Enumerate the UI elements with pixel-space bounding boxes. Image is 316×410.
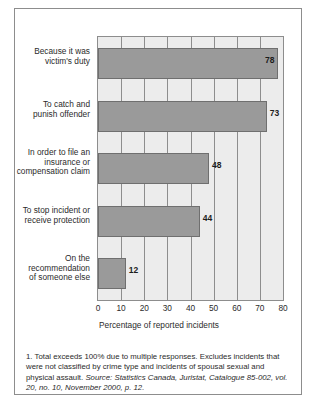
category-label: Because it was victim's duty (10, 47, 90, 66)
bar[interactable] (98, 206, 200, 237)
category-label: To stop incident or receive protection (10, 206, 90, 225)
x-tick-label: 60 (232, 303, 241, 313)
x-tick-label: 50 (209, 303, 218, 313)
category-label-line: punish offender (10, 110, 90, 120)
bar[interactable] (98, 101, 267, 132)
x-tick-label: 20 (140, 303, 149, 313)
category-label: In order to file an insurance or compens… (10, 148, 90, 177)
footnote-source-journal: Juristat (179, 373, 204, 382)
bar-row: 78 (98, 37, 283, 90)
bar-row: 48 (98, 142, 283, 195)
bar-row: 73 (98, 90, 283, 143)
footnote-number: 1. (26, 352, 33, 361)
bar-value-label: 44 (203, 213, 212, 223)
gridline (283, 37, 284, 300)
x-tick-label: 80 (278, 303, 287, 313)
bar[interactable] (98, 48, 278, 79)
x-tick-label: 70 (255, 303, 264, 313)
bar-row: 44 (98, 195, 283, 248)
bar-value-label: 73 (270, 108, 279, 118)
x-tick-label: 10 (117, 303, 126, 313)
x-tick-label: 0 (96, 303, 101, 313)
footnote-source-label: Source: (85, 373, 112, 382)
plot-area: 7873484412 (97, 36, 284, 301)
category-label-line: victim's duty (10, 57, 90, 67)
bar-chart: Because it was victim's duty To catch an… (15, 9, 303, 319)
category-label-line: receive protection (10, 216, 90, 226)
x-tick-label: 40 (186, 303, 195, 313)
footnote: 1. Total exceeds 100% due to multiple re… (26, 352, 292, 394)
x-axis-title: Percentage of reported incidents (15, 320, 303, 330)
bar-value-label: 48 (212, 160, 221, 170)
category-label: On the recommendation of someone else (10, 254, 90, 283)
bar[interactable] (98, 153, 209, 184)
x-axis-ticks: 01020304050607080 (97, 303, 284, 317)
figure-frame: Because it was victim's duty To catch an… (14, 8, 302, 395)
bar-value-label: 12 (129, 265, 138, 275)
category-label-line: of someone else (10, 273, 90, 283)
category-label-line: compensation claim (10, 167, 90, 177)
bar-row: 12 (98, 247, 283, 300)
x-tick-label: 30 (163, 303, 172, 313)
bar-value-label: 78 (265, 55, 274, 65)
category-label: To catch and punish offender (10, 100, 90, 119)
bar[interactable] (98, 258, 126, 289)
footnote-source-pre: Statistics Canada, (112, 373, 179, 382)
